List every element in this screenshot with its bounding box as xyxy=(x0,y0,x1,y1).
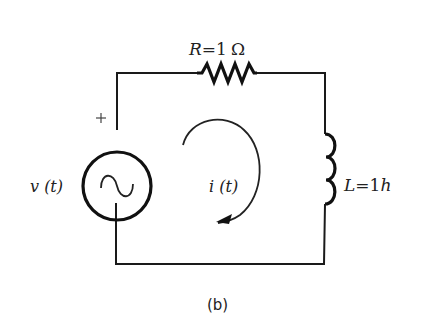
wire-top-right xyxy=(257,73,325,134)
resistor-label: R=1Ω xyxy=(188,39,245,59)
inductor-symbol xyxy=(325,134,335,204)
figure-caption: (b) xyxy=(207,296,228,314)
current-label: i (t) xyxy=(209,177,238,196)
current-loop-arc xyxy=(183,120,260,223)
source-label: v (t) xyxy=(30,177,63,196)
sine-wave-icon xyxy=(101,176,133,197)
plus-polarity-icon xyxy=(96,113,106,123)
inductor-label: L=1h xyxy=(343,175,391,195)
wire-bottom xyxy=(116,203,325,264)
resistor-symbol xyxy=(197,64,257,82)
wire-top-left xyxy=(117,73,197,130)
circuit-diagram: R=1Ω L=1h v (t) i (t) (b) xyxy=(0,0,430,332)
